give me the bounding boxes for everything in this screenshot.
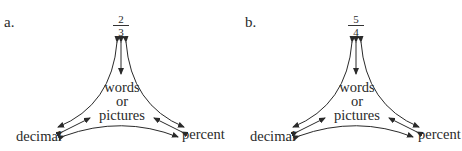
center-line-1: words bbox=[87, 80, 157, 94]
decimal-node: decimal bbox=[250, 128, 296, 145]
fraction-denominator: 4 bbox=[348, 26, 364, 37]
fraction-numerator: 5 bbox=[348, 14, 364, 26]
panel-label: a. bbox=[4, 14, 14, 31]
diagram-panel-b: b. 5 4 words or pictures decimal percent bbox=[231, 0, 462, 151]
words-or-pictures-node: words or pictures bbox=[322, 80, 392, 122]
decimal-node: decimal bbox=[16, 128, 62, 145]
percent-node: percent bbox=[418, 126, 461, 143]
center-line-1: words bbox=[322, 80, 392, 94]
fraction-numerator: 2 bbox=[113, 14, 129, 26]
panel-label: b. bbox=[245, 14, 256, 31]
center-line-2: or bbox=[322, 94, 392, 108]
center-line-2: or bbox=[87, 94, 157, 108]
words-or-pictures-node: words or pictures bbox=[87, 80, 157, 122]
percent-node: percent bbox=[182, 126, 225, 143]
center-line-3: pictures bbox=[322, 108, 392, 122]
center-line-3: pictures bbox=[87, 108, 157, 122]
fraction-node: 5 4 bbox=[348, 14, 364, 37]
fraction-denominator: 3 bbox=[113, 26, 129, 37]
fraction-node: 2 3 bbox=[113, 14, 129, 37]
diagram-panel-a: a. 2 3 words or pictures decimal percent bbox=[0, 0, 231, 151]
